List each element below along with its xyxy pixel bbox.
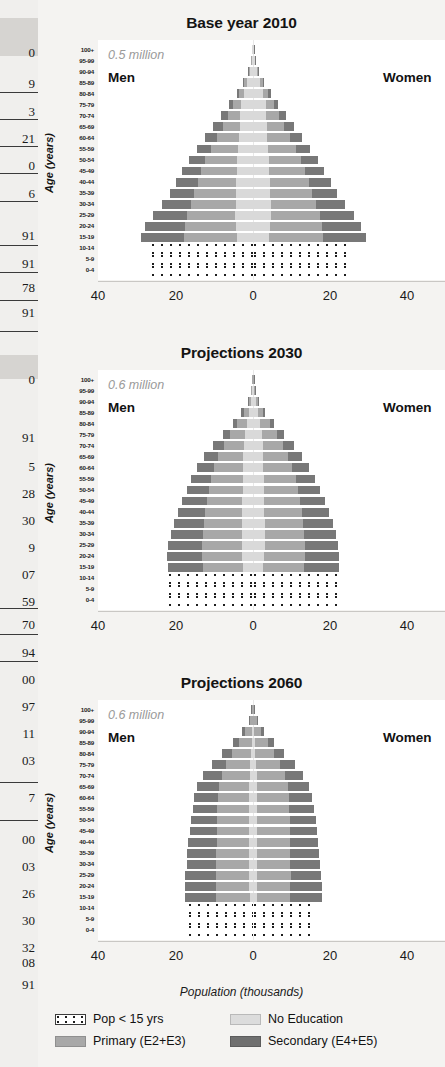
bleed-rule [0, 272, 38, 273]
bar-segment-no-education [253, 497, 264, 506]
bar-segment-secondary [170, 189, 194, 198]
bar-segment-no-education [253, 122, 267, 131]
bleed-rule [0, 782, 38, 783]
bar-segment-secondary [213, 122, 223, 131]
bleed-table-cell: 6 [29, 186, 36, 202]
bar-segment-primary [270, 222, 322, 231]
pyramid-bar [253, 397, 259, 406]
bar-segment-primary [217, 133, 239, 142]
bar-segment-secondary [296, 145, 310, 154]
legend-label: Secondary (E4+E5) [268, 1034, 377, 1048]
y-axis-tick-label: 55-59 [56, 475, 94, 482]
bar-segment-under15 [253, 573, 337, 584]
pyramid-bar [187, 860, 253, 869]
pyramid-bar [253, 408, 265, 417]
pyramid-bar [253, 705, 255, 714]
bar-segment-primary [205, 156, 237, 165]
bar-segment-primary [198, 178, 237, 187]
y-axis-tick-label: 25-29 [56, 541, 94, 548]
y-axis-tick-label: 70-74 [56, 442, 94, 449]
y-axis-tick-label: 65-69 [56, 123, 94, 130]
bar-segment-primary [216, 893, 249, 902]
pyramid-bar [253, 133, 302, 142]
x-axis-tick-label: 40 [78, 618, 118, 633]
bar-segment-under15 [253, 925, 316, 936]
pyramid-bar [253, 475, 315, 484]
pyramid-bar [182, 497, 253, 506]
pyramid-bar [253, 749, 284, 758]
pyramid-bar [174, 519, 253, 528]
bar-segment-primary [270, 189, 312, 198]
scale-annotation: 0.6 million [108, 378, 164, 392]
y-axis-tick-label: 25-29 [56, 871, 94, 878]
legend-label: Pop < 15 yrs [93, 1012, 164, 1026]
bar-segment-under15 [151, 265, 253, 276]
bar-segment-no-education [240, 122, 253, 131]
bar-segment-primary [257, 771, 285, 780]
bar-segment-secondary [303, 519, 333, 528]
pyramid-bar [253, 145, 310, 154]
bar-segment-secondary [205, 133, 217, 142]
pyramid-bar [203, 771, 253, 780]
bar-segment-primary [226, 760, 250, 769]
bar-segment-secondary [189, 156, 205, 165]
bar-segment-primary [204, 519, 242, 528]
pyramid-bar [168, 563, 253, 572]
bar-segment-no-education [235, 211, 253, 220]
bar-segment-no-education [236, 189, 253, 198]
bleed-table-cell: 91 [22, 256, 35, 272]
bar-segment-secondary [288, 452, 302, 461]
bleed-table-cell: 9 [29, 76, 36, 92]
bar-segment-primary [184, 233, 237, 242]
bleed-table-cell: 30 [22, 513, 35, 529]
legend-item-secondary: Secondary (E4+E5) [230, 1034, 377, 1048]
bar-segment-primary [265, 541, 305, 550]
bleed-rule [0, 820, 38, 821]
legend-item-kids: Pop < 15 yrs [55, 1012, 164, 1026]
y-axis-tick-label: 35-39 [56, 189, 94, 196]
bar-segment-primary [263, 441, 283, 450]
pyramid-bar [233, 419, 253, 428]
y-axis-tick-label: 100+ [56, 706, 94, 713]
y-axis-tick-label: 80-84 [56, 750, 94, 757]
bar-segment-secondary [203, 771, 222, 780]
pyramid-bar [253, 838, 318, 847]
bar-segment-no-education [253, 233, 269, 242]
bleed-table-cell: 97 [22, 699, 35, 715]
y-axis-tick-label: 55-59 [56, 805, 94, 812]
bleed-rule [0, 634, 38, 635]
y-axis-tick-label: 85-89 [56, 409, 94, 416]
bar-segment-under15 [188, 925, 253, 936]
x-axis-tick-label: 20 [156, 618, 196, 633]
bar-segment-no-education [253, 519, 265, 528]
bar-segment-primary [257, 805, 289, 814]
bar-segment-no-education [253, 475, 264, 484]
x-axis-tick-label: 40 [78, 948, 118, 963]
bar-segment-no-education [236, 200, 253, 209]
pyramid-bar [253, 816, 316, 825]
x-axis-line [98, 611, 445, 612]
pyramid-bar [253, 78, 264, 87]
y-axis-tick-label: 95-99 [56, 387, 94, 394]
bar-segment-secondary [182, 497, 207, 506]
bar-segment-no-education [253, 178, 270, 187]
legend-label: No Education [268, 1012, 343, 1026]
bar-segment-no-education [253, 156, 269, 165]
bar-segment-primary [185, 222, 236, 231]
bar-segment-no-education [240, 111, 253, 120]
bar-segment-secondary [223, 430, 230, 439]
pyramid-bar [185, 871, 253, 880]
pyramid-bar [213, 122, 253, 131]
women-label: Women [383, 400, 432, 415]
x-axis-tick-label: 20 [156, 948, 196, 963]
bar-segment-secondary [290, 827, 317, 836]
pyramid-bar [178, 508, 253, 517]
bar-segment-no-education [253, 78, 260, 87]
bar-segment-secondary [296, 475, 316, 484]
y-axis-tick-label: 20-24 [56, 552, 94, 559]
y-axis-tick-label: 40-44 [56, 178, 94, 185]
bar-segment-secondary [304, 563, 339, 572]
bar-segment-primary [267, 133, 290, 142]
bar-segment-primary [264, 486, 298, 495]
y-axis-tick-label: 35-39 [56, 849, 94, 856]
